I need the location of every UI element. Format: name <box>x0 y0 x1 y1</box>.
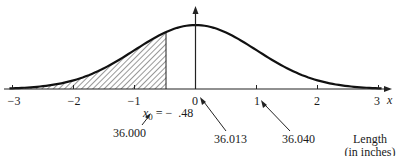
value-36013: 36.013 <box>214 133 247 145</box>
tick-label: −3 <box>8 95 21 107</box>
tick-label: 3 <box>374 95 380 107</box>
x0-annotation: x0 = − .48 <box>143 107 193 123</box>
x-axis-label: x <box>387 94 392 106</box>
length-label-line2: (in inches) <box>340 146 400 156</box>
tick-label: 2 <box>314 95 320 107</box>
value-36040: 36.040 <box>282 133 315 145</box>
tick-label: 1 <box>254 95 260 107</box>
tick-label: −2 <box>68 95 81 107</box>
x-axis-arrow-icon <box>384 86 392 92</box>
x0-value: = − .48 <box>153 106 194 120</box>
length-label: Length (in inches) <box>340 133 400 156</box>
y-axis-arrow-icon <box>193 6 199 14</box>
value-36000: 36.000 <box>113 127 146 139</box>
length-label-line1: Length <box>340 133 400 145</box>
shaded-region <box>13 32 167 89</box>
arrow-36013 <box>204 102 226 131</box>
arrow-36040 <box>265 105 290 131</box>
tick-label: −1 <box>128 95 141 107</box>
